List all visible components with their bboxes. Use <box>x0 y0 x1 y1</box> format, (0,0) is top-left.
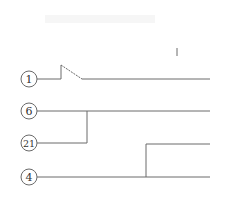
switch-contact <box>61 65 82 79</box>
node-1-label: 1 <box>26 73 33 86</box>
faint-text-background <box>45 15 155 23</box>
node-21-label: 21 <box>23 138 35 149</box>
node-6-label: 6 <box>26 105 33 118</box>
line-1-lead <box>37 65 61 79</box>
line-4-branch <box>146 144 210 177</box>
line-6: 6 <box>21 103 210 119</box>
wiring-diagram: 1 6 21 4 <box>0 0 229 203</box>
line-4: 4 <box>21 144 210 185</box>
line-21-join <box>37 111 87 143</box>
line-1: 1 <box>21 65 210 87</box>
node-4-label: 4 <box>26 171 33 184</box>
